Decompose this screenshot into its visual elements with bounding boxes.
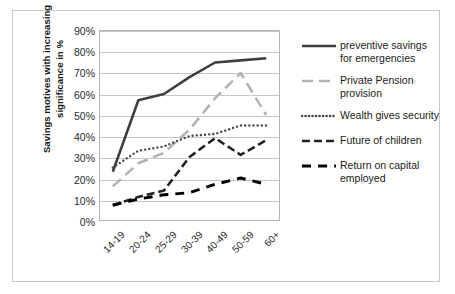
plot-area: 0%10%20%30%40%50%60%70%80%90% 14-1920-24… <box>99 30 280 221</box>
y-tick-label: 40% <box>74 131 95 143</box>
y-tick-label: 60% <box>74 89 95 101</box>
chart-figure: Savings motives with increasing signific… <box>12 10 440 282</box>
x-tick-label: 40-49 <box>204 229 230 255</box>
legend-label: Private Pensionprovision <box>340 74 414 100</box>
legend-item[interactable]: Private Pensionprovision <box>301 74 441 100</box>
legend-label: Future of children <box>340 134 422 147</box>
legend-item[interactable]: Future of children <box>301 134 441 150</box>
series-lines <box>100 31 279 220</box>
chart-legend: preventive savingsfor emergenciesPrivate… <box>301 39 441 194</box>
legend-line-icon <box>301 39 337 53</box>
legend-item[interactable]: preventive savingsfor emergencies <box>301 39 441 65</box>
legend-label: Wealth gives security <box>340 109 439 122</box>
y-tick-label: 30% <box>74 152 95 164</box>
x-tick-label: 60+ <box>262 229 282 249</box>
x-tick-label: 14-19 <box>101 229 127 255</box>
series-line <box>113 178 266 205</box>
x-tick-label: 25-29 <box>153 229 179 255</box>
series-line <box>113 73 266 186</box>
x-tick-label: 20-24 <box>127 229 153 255</box>
series-line <box>113 126 266 168</box>
y-axis-title: Savings motives with increasing signific… <box>40 0 66 164</box>
legend-line-icon <box>301 159 337 173</box>
x-tick-label: 30-39 <box>178 229 204 255</box>
x-tick-label: 50-59 <box>230 229 256 255</box>
legend-label: Return on capitalemployed <box>340 159 419 185</box>
legend-item[interactable]: Return on capitalemployed <box>301 159 441 185</box>
y-tick-label: 70% <box>74 67 95 79</box>
series-line <box>113 138 266 205</box>
legend-line-icon <box>301 134 337 148</box>
legend-line-icon <box>301 74 337 88</box>
y-tick-label: 20% <box>74 174 95 186</box>
legend-line-icon <box>301 109 337 123</box>
y-tick-label: 10% <box>74 195 95 207</box>
y-tick-label: 50% <box>74 110 95 122</box>
legend-item[interactable]: Wealth gives security <box>301 109 441 125</box>
y-tick-label: 80% <box>74 46 95 58</box>
legend-label: preventive savingsfor emergencies <box>340 39 427 65</box>
y-tick-label: 90% <box>74 25 95 37</box>
y-tick-label: 0% <box>80 216 95 228</box>
